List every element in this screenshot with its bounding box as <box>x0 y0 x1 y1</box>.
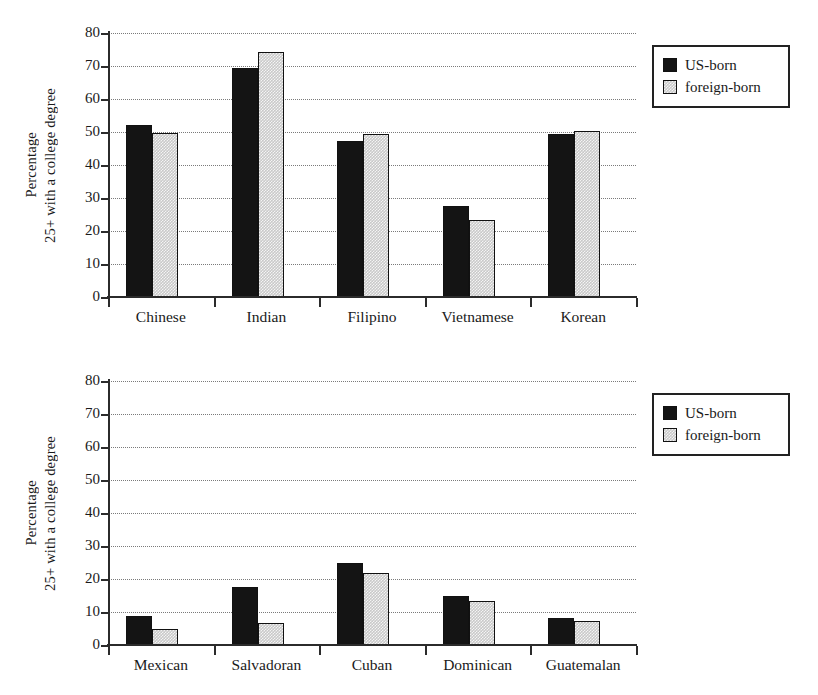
legend-swatch-foreign-born-icon <box>663 428 677 442</box>
bar-salvadoran-foreign-born <box>258 623 284 645</box>
x-axis-tick <box>425 646 427 655</box>
bar-cuban-foreign-born <box>363 573 389 645</box>
legend-label-foreign-born: foreign-born <box>685 79 761 95</box>
y-axis-tick-label: 70 <box>56 58 100 73</box>
y-axis-tick-label: 0 <box>56 289 100 304</box>
y-axis-tick-label: 60 <box>56 439 100 454</box>
legend-swatch-us-born-icon <box>663 58 677 72</box>
y-axis-line-bottom <box>108 379 110 647</box>
legend-swatch-foreign-born-icon <box>663 80 677 94</box>
y-axis-tick <box>101 645 108 647</box>
plot-area-top <box>108 33 636 297</box>
y-axis-tick-label: 10 <box>56 256 100 271</box>
bar-korean-foreign-born <box>574 131 600 297</box>
y-axis-tick <box>101 381 108 383</box>
bar-mexican-foreign-born <box>152 629 178 645</box>
legend-swatch-us-born-icon <box>663 406 677 420</box>
chart-panel-asian: Percentage 25+ with a college degree 010… <box>0 0 818 347</box>
x-axis-tick <box>530 298 532 307</box>
bar-mexican-us-born <box>126 616 152 645</box>
y-axis-tick <box>101 513 108 515</box>
legend-label-foreign-born: foreign-born <box>685 427 761 443</box>
x-axis-tick <box>214 298 216 307</box>
y-axis-tick <box>101 447 108 449</box>
bar-vietnamese-foreign-born <box>469 220 495 297</box>
x-category-label-cuban: Cuban <box>352 656 392 674</box>
y-axis-title-line-1: Percentage <box>23 132 40 198</box>
x-axis-tick <box>214 646 216 655</box>
x-category-label-indian: Indian <box>247 308 287 326</box>
legend-top: US-born foreign-born <box>652 45 790 108</box>
x-category-label-filipino: Filipino <box>347 308 396 326</box>
bar-vietnamese-us-born <box>443 206 469 297</box>
x-category-label-korean: Korean <box>560 308 606 326</box>
bar-cuban-us-born <box>337 563 363 646</box>
bar-filipino-us-born <box>337 141 363 297</box>
y-axis-tick <box>101 165 108 167</box>
x-axis-end-tick <box>636 646 638 655</box>
y-axis-tick <box>101 480 108 482</box>
y-axis-tick <box>101 66 108 68</box>
plot-area-bottom <box>108 381 636 645</box>
x-category-label-chinese: Chinese <box>136 308 186 326</box>
y-axis-tick <box>101 579 108 581</box>
y-axis-tick <box>101 414 108 416</box>
legend-item-us-born: US-born <box>663 54 780 76</box>
y-axis-tick-label: 80 <box>56 25 100 40</box>
legend-item-foreign-born: foreign-born <box>663 76 780 98</box>
y-axis-tick-label: 20 <box>56 223 100 238</box>
x-axis-line-bottom <box>107 644 637 646</box>
bar-indian-foreign-born <box>258 52 284 297</box>
x-axis-line-top <box>107 296 637 298</box>
gridline <box>108 447 636 449</box>
gridline <box>108 99 636 101</box>
x-axis-end-tick <box>108 646 110 655</box>
x-category-label-salvadoran: Salvadoran <box>232 656 302 674</box>
bar-dominican-foreign-born <box>469 601 495 645</box>
legend-item-us-born: US-born <box>663 402 780 424</box>
y-axis-line-top <box>108 31 110 299</box>
y-axis-title-line-1: Percentage <box>23 480 40 546</box>
gridline <box>108 480 636 482</box>
y-axis-tick-label: 80 <box>56 373 100 388</box>
y-axis-tick-label: 10 <box>56 604 100 619</box>
x-axis-tick <box>319 646 321 655</box>
bar-indian-us-born <box>232 68 258 297</box>
bar-guatemalan-us-born <box>548 618 574 645</box>
bar-korean-us-born <box>548 134 574 297</box>
y-axis-tick <box>101 546 108 548</box>
bar-filipino-foreign-born <box>363 134 389 297</box>
bar-chinese-us-born <box>126 125 152 297</box>
y-axis-tick-label: 30 <box>56 538 100 553</box>
gridline <box>108 33 636 35</box>
legend-bottom: US-born foreign-born <box>652 393 790 456</box>
x-category-label-vietnamese: Vietnamese <box>441 308 513 326</box>
y-axis-tick-label: 60 <box>56 91 100 106</box>
legend-label-us-born: US-born <box>685 57 737 73</box>
x-axis-tick <box>530 646 532 655</box>
y-axis-tick <box>101 264 108 266</box>
y-axis-tick-label: 30 <box>56 190 100 205</box>
bar-guatemalan-foreign-born <box>574 621 600 645</box>
bar-chinese-foreign-born <box>152 133 178 297</box>
y-axis-tick <box>101 612 108 614</box>
y-axis-tick <box>101 99 108 101</box>
y-axis-tick-label: 50 <box>56 472 100 487</box>
x-axis-end-tick <box>108 298 110 307</box>
x-category-label-dominican: Dominican <box>443 656 512 674</box>
gridline <box>108 414 636 416</box>
x-axis-tick <box>425 298 427 307</box>
legend-label-us-born: US-born <box>685 405 737 421</box>
gridline <box>108 546 636 548</box>
x-axis-end-tick <box>636 298 638 307</box>
y-axis-tick <box>101 132 108 134</box>
gridline <box>108 66 636 68</box>
gridline <box>108 381 636 383</box>
x-category-label-guatemalan: Guatemalan <box>546 656 621 674</box>
y-axis-tick <box>101 198 108 200</box>
y-axis-tick-label: 70 <box>56 406 100 421</box>
y-axis-tick <box>101 231 108 233</box>
bar-salvadoran-us-born <box>232 587 258 645</box>
y-axis-tick-label: 0 <box>56 637 100 652</box>
bar-dominican-us-born <box>443 596 469 645</box>
